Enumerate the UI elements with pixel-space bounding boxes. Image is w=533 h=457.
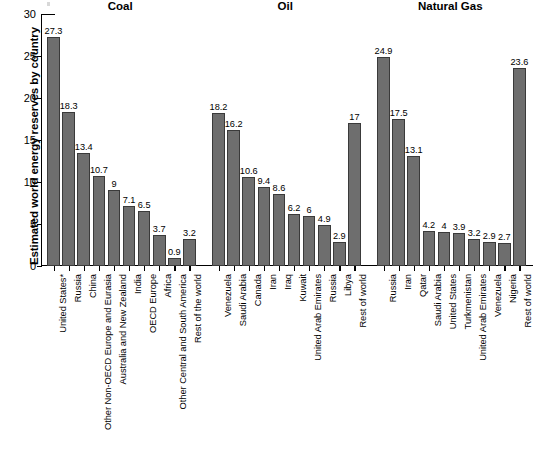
bar	[183, 239, 196, 266]
bar-value-label: 0.9	[168, 247, 181, 257]
x-axis-label: Turkmenistan	[463, 274, 473, 329]
bar	[423, 231, 436, 266]
x-tick-mark	[354, 266, 355, 271]
bar-value-label: 8.6	[273, 183, 286, 193]
x-axis-label: United Arab Emirates	[313, 274, 323, 361]
x-axis-label: Iran	[268, 274, 278, 290]
bar-value-label: 9	[111, 179, 116, 189]
x-axis-label: Qatar	[418, 274, 428, 297]
x-tick-mark	[519, 266, 520, 271]
x-tick-mark	[99, 266, 100, 271]
x-tick-mark	[324, 266, 325, 271]
bar	[273, 194, 286, 266]
x-axis-label: Africa	[163, 274, 173, 297]
y-tick-label: 5	[6, 218, 36, 230]
bar	[123, 206, 136, 266]
bar-value-label: 2.9	[483, 231, 496, 241]
bar-value-label: 13.1	[405, 145, 423, 155]
plot-area: 27.318.313.410.797.16.53.70.93.218.216.2…	[41, 14, 519, 266]
bar-value-label: 4.9	[318, 214, 331, 224]
x-axis-label: Rest of world	[523, 274, 533, 328]
x-axis-label: Venezuela	[223, 274, 233, 317]
x-axis-label: Kuwait	[298, 274, 308, 302]
bar	[168, 258, 181, 266]
bar-value-label: 3.9	[453, 222, 466, 232]
x-tick-mark	[414, 266, 415, 271]
bar	[108, 190, 121, 266]
x-axis-label: Rest of the world	[193, 274, 203, 343]
bar-value-label: 2.7	[498, 232, 511, 242]
bar	[513, 68, 526, 266]
y-tick-label: 30	[6, 8, 36, 20]
bar-value-label: 3.2	[468, 228, 481, 238]
bar-value-label: 4	[441, 221, 446, 231]
x-axis-label: Rest of world	[358, 274, 368, 328]
x-axis-label: OECD Europe	[148, 274, 158, 333]
x-tick-mark	[504, 266, 505, 271]
bar	[258, 187, 271, 266]
x-tick-mark	[429, 266, 430, 271]
bar	[348, 123, 361, 266]
x-tick-mark	[84, 266, 85, 271]
x-tick-mark	[279, 266, 280, 271]
bar	[438, 232, 451, 266]
x-axis-label: United Arab Emirates	[478, 274, 488, 361]
x-tick-mark	[249, 266, 250, 271]
bar-value-label: 3.2	[183, 228, 196, 238]
bar	[483, 242, 496, 266]
bar	[453, 233, 466, 266]
y-tick-label: 25	[6, 50, 36, 62]
x-tick-mark	[129, 266, 130, 271]
bar-value-label: 10.6	[240, 166, 258, 176]
x-tick-mark	[54, 266, 55, 271]
x-tick-mark	[309, 266, 310, 271]
y-tick-label: 15	[6, 134, 36, 146]
x-axis-label: China	[88, 274, 98, 298]
y-axis-ticks: 051015202530	[0, 0, 42, 270]
bar	[138, 211, 151, 266]
bar-value-label: 6.2	[288, 203, 301, 213]
x-axis-label: Russia	[73, 274, 83, 302]
x-axis-label: Russia	[328, 274, 338, 302]
bar-value-label: 16.2	[225, 119, 243, 129]
x-tick-mark	[294, 266, 295, 271]
x-axis-label: Australia and New Zealand	[118, 274, 128, 384]
bar	[407, 156, 420, 266]
x-axis-label: Other Central and South America	[178, 274, 188, 409]
x-tick-mark	[489, 266, 490, 271]
y-tick-label: 0	[6, 260, 36, 272]
x-axis-label: India	[133, 274, 143, 294]
bar	[288, 214, 301, 266]
group-title-natural-gas: Natural Gas	[418, 0, 483, 12]
bar-value-label: 18.3	[60, 101, 78, 111]
bar	[468, 239, 481, 266]
bar	[77, 153, 90, 266]
bar-value-label: 23.6	[510, 57, 528, 67]
x-tick-mark	[159, 266, 160, 271]
bar	[333, 242, 346, 266]
group-title-coal: Coal	[108, 0, 133, 12]
bar-value-label: 4.2	[422, 220, 435, 230]
bar	[498, 243, 511, 266]
x-tick-mark	[174, 266, 175, 271]
bar-value-label: 2.9	[333, 231, 346, 241]
group-title-oil: Oil	[278, 0, 293, 12]
stray-artifact-mark	[47, 2, 50, 6]
bar-value-label: 6	[307, 205, 312, 215]
bar	[212, 113, 225, 266]
bar	[242, 177, 255, 266]
x-tick-mark	[444, 266, 445, 271]
x-axis-label: Saudi Arabia	[433, 274, 443, 326]
x-axis-label: Iran	[403, 274, 413, 290]
x-axis-label: Saudi Arabia	[238, 274, 248, 326]
bar-value-label: 17.5	[390, 108, 408, 118]
bar	[392, 119, 405, 266]
bar-value-label: 10.7	[90, 165, 108, 175]
bar-value-label: 13.4	[75, 142, 93, 152]
bar-value-label: 6.5	[138, 200, 151, 210]
bar-value-label: 7.1	[123, 195, 136, 205]
bar-value-label: 9.4	[257, 176, 270, 186]
x-tick-mark	[189, 266, 190, 271]
x-tick-mark	[384, 266, 385, 271]
